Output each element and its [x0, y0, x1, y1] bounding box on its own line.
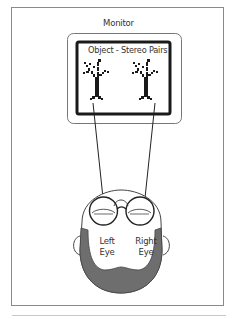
left-ear [74, 236, 80, 255]
right-eye-label-line1: Right [134, 236, 158, 247]
left-eye-label-line2: Eye [97, 247, 117, 258]
right-eye-label: Right Eye [134, 236, 158, 258]
left-eye-label-line1: Left [97, 236, 117, 247]
monitor-label: Monitor [103, 19, 134, 28]
right-eye-label-line2: Eye [134, 247, 158, 258]
right-ear [163, 236, 169, 255]
left-eye-label: Left Eye [97, 236, 117, 258]
screen-label: Object - Stereo Pairs [88, 46, 167, 54]
